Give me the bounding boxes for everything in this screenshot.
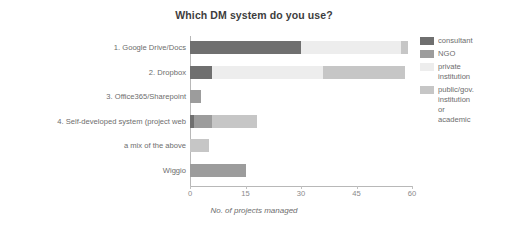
bar-segment xyxy=(301,41,401,54)
bar-segment xyxy=(212,115,256,128)
legend-item[interactable]: privateinstitution xyxy=(420,62,508,82)
bar-chart: Which DM system do you use? 1. Google Dr… xyxy=(0,0,508,233)
category-label: 3. Office365/Sharepoint xyxy=(0,92,186,101)
legend-label: NGO xyxy=(438,49,455,59)
bar-segment xyxy=(401,41,408,54)
bar-segment xyxy=(190,139,209,152)
legend-swatch-icon xyxy=(420,37,434,45)
legend-label: public/gov.institutionoracademic xyxy=(438,85,474,125)
category-label: 2. Dropbox xyxy=(0,68,186,77)
legend-swatch-icon xyxy=(420,86,434,94)
bar-segment xyxy=(190,164,246,177)
legend-item[interactable]: consultant xyxy=(420,36,508,46)
legend-swatch-icon xyxy=(420,50,434,58)
chart-title: Which DM system do you use? xyxy=(0,9,508,21)
legend-label: consultant xyxy=(438,36,473,46)
bar-segment xyxy=(190,41,301,54)
bar-segment xyxy=(194,115,213,128)
legend-label: privateinstitution xyxy=(438,62,470,82)
bar-segment xyxy=(190,66,212,79)
bar-segment xyxy=(212,66,323,79)
category-label: Wiggio xyxy=(0,166,186,175)
tick-label: 60 xyxy=(408,189,416,198)
legend-swatch-icon xyxy=(420,63,434,71)
category-label: 4. Self-developed system (project web xyxy=(0,117,186,126)
legend: consultantNGOprivateinstitutionpublic/go… xyxy=(420,36,508,128)
legend-item[interactable]: public/gov.institutionoracademic xyxy=(420,85,508,125)
x-axis-label: No. of projects managed xyxy=(0,206,508,215)
tick-label: 30 xyxy=(297,189,305,198)
bar-segment xyxy=(190,90,201,103)
tick-label: 45 xyxy=(352,189,360,198)
legend-item[interactable]: NGO xyxy=(420,49,508,59)
bar-segment xyxy=(323,66,404,79)
category-label: 1. Google Drive/Docs xyxy=(0,43,186,52)
category-label: a mix of the above xyxy=(0,141,186,150)
tick-label: 0 xyxy=(188,189,192,198)
tick-label: 15 xyxy=(241,189,249,198)
